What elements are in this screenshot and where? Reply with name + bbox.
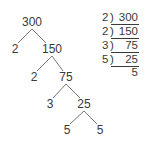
tree-node-150: 150 [42,43,62,55]
tree-node-3: 3 [47,98,54,110]
division-row: 2 ) 150 [102,25,142,38]
tree-node-300: 300 [22,16,42,28]
dividend: 150 [119,25,138,38]
tree-node-5: 5 [97,124,104,136]
division-bracket-icon: ) [110,25,114,38]
division-bracket-icon: ) [110,39,114,52]
tree-node-25: 25 [77,98,90,110]
tree-node-75: 75 [59,71,72,83]
final-quotient: 5 [132,66,138,79]
dividend: 300 [119,11,138,24]
tree-node-2: 2 [31,71,38,83]
division-bracket-icon: ) [110,53,114,66]
tree-node-5: 5 [64,124,71,136]
division-row: 2 ) 300 [102,11,142,24]
dividend: 75 [125,39,138,52]
divisor: 2 [102,11,108,24]
tree-node-2: 2 [12,43,19,55]
division-row: 3 ) 75 [102,39,142,52]
divisor: 3 [102,39,108,52]
divisor: 5 [102,53,108,66]
divisor: 2 [102,25,108,38]
division-row: 5 ) 25 [102,53,142,66]
dividend: 25 [125,53,138,66]
division-bracket-icon: ) [110,11,114,24]
